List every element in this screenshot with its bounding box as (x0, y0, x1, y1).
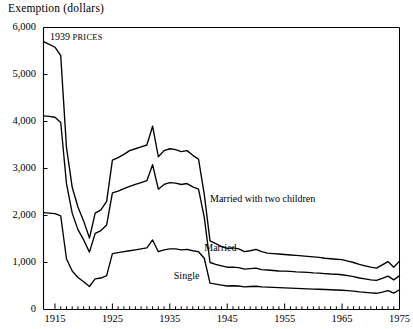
annotation-year: 1939 (50, 31, 70, 42)
plot-area (0, 0, 413, 329)
series-line-0 (44, 42, 400, 269)
x-tick-label: 1915 (35, 313, 75, 324)
x-tick-label: 1975 (380, 313, 413, 324)
y-tick-label: 4,000 (0, 115, 36, 126)
x-tick-label: 1965 (322, 313, 362, 324)
price-basis-annotation: 1939 PRICES (50, 31, 103, 42)
exemption-line-chart: Exemption (dollars) 1939 PRICES 01,0002,… (0, 0, 413, 329)
y-axis-title: Exemption (dollars) (8, 2, 104, 14)
y-tick-label: 3,000 (0, 162, 36, 173)
x-tick-label: 1955 (265, 313, 305, 324)
x-tick-label: 1945 (207, 313, 247, 324)
series-label-1: Married (204, 242, 236, 253)
series-label-0: Married with two children (210, 193, 315, 204)
series-line-2 (44, 213, 400, 294)
series-label-2: Single (174, 270, 200, 281)
x-tick-label: 1925 (92, 313, 132, 324)
x-tick-label: 1935 (150, 313, 190, 324)
y-tick-label: 1,000 (0, 256, 36, 267)
y-tick-label: 0 (0, 303, 36, 314)
y-tick-label: 5,000 (0, 68, 36, 79)
annotation-word: PRICES (73, 33, 103, 42)
y-tick-label: 6,000 (0, 21, 36, 32)
y-tick-label: 2,000 (0, 209, 36, 220)
